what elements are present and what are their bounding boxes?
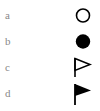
list-item-b: b (0, 29, 100, 55)
open-flag-icon (70, 55, 96, 81)
item-label: a (5, 8, 10, 22)
item-label: b (5, 34, 11, 48)
filled-circle-icon (70, 29, 96, 55)
item-label: d (5, 86, 11, 100)
filled-flag-icon (70, 81, 96, 107)
open-circle-icon (70, 3, 96, 29)
list-item-a: a (0, 3, 100, 29)
item-label: c (5, 60, 10, 74)
list-item-c: c (0, 55, 100, 81)
list-item-d: d (0, 81, 100, 107)
